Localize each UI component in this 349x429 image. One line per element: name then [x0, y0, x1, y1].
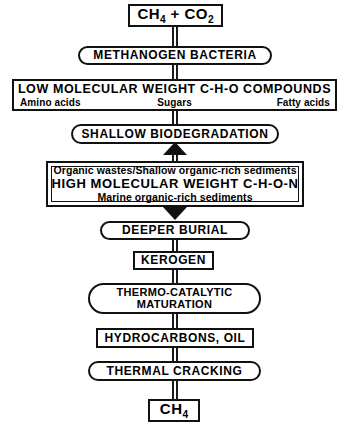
- connector-ch4co2-to-methanogen: [172, 26, 178, 48]
- node-high-molecular-weight-line1: Organic wastes/Shallow organic-rich sedi…: [53, 165, 296, 177]
- node-kerogen: KEROGEN: [133, 251, 214, 270]
- node-hydrocarbons-oil-label: HYDROCARBONS, OIL: [105, 332, 246, 345]
- node-low-molecular-weight-sublabels: Amino acids Sugars Fatty acids: [14, 97, 335, 108]
- connector-methanogen-to-lowmw: [172, 64, 178, 80]
- connector-kerogen-to-thermocatalytic: [172, 269, 178, 284]
- connector-lowmw-to-shallow: [172, 110, 178, 125]
- flowchart-diagram: CH4 + CO2 METHANOGEN BACTERIA LOW MOLECU…: [0, 0, 349, 429]
- node-thermo-catalytic-maturation-line2: MATURATION: [137, 299, 212, 311]
- node-shallow-biodegradation-label: SHALLOW BIODEGRADATION: [82, 128, 269, 141]
- node-high-molecular-weight-line2: HIGH MOLECULAR WEIGHT C-H-O-N: [51, 177, 298, 191]
- node-low-molecular-weight-label: LOW MOLECULAR WEIGHT C-H-O COMPOUNDS: [18, 83, 331, 96]
- node-high-molecular-weight-line3: Marine organic-rich sediments: [97, 192, 252, 204]
- sublabel-fatty-acids: Fatty acids: [277, 97, 330, 108]
- node-deeper-burial-label: DEEPER BURIAL: [122, 224, 228, 237]
- node-hydrocarbons-oil: HYDROCARBONS, OIL: [96, 328, 254, 348]
- connector-thermalcracking-to-ch4: [172, 380, 178, 400]
- node-ch4-final: CH4: [148, 399, 200, 422]
- node-thermo-catalytic-maturation-line1: THERMO-CATALYTIC: [117, 287, 233, 299]
- node-high-molecular-weight-inner: Organic wastes/Shallow organic-rich sedi…: [51, 166, 299, 202]
- node-deeper-burial: DEEPER BURIAL: [100, 221, 250, 240]
- node-kerogen-label: KEROGEN: [141, 254, 206, 267]
- node-thermal-cracking-label: THERMAL CRACKING: [106, 365, 242, 378]
- node-low-molecular-weight: LOW MOLECULAR WEIGHT C-H-O COMPOUNDS Ami…: [12, 79, 337, 111]
- node-ch4-final-label: CH4: [160, 401, 188, 420]
- sublabel-amino-acids: Amino acids: [20, 97, 81, 108]
- node-thermal-cracking: THERMAL CRACKING: [88, 361, 261, 381]
- node-methanogen-bacteria-label: METHANOGEN BACTERIA: [93, 49, 256, 62]
- arrow-to-deeper-burial-icon: [163, 207, 187, 220]
- node-ch4-co2: CH4 + CO2: [128, 4, 223, 27]
- node-thermo-catalytic-maturation: THERMO-CATALYTIC MATURATION: [88, 283, 261, 314]
- connector-hydrocarbons-to-thermalcracking: [172, 347, 178, 362]
- connector-thermocatalytic-to-hydrocarbons: [172, 313, 178, 329]
- node-ch4-co2-label: CH4 + CO2: [137, 6, 213, 25]
- node-shallow-biodegradation: SHALLOW BIODEGRADATION: [71, 124, 279, 144]
- node-high-molecular-weight: Organic wastes/Shallow organic-rich sedi…: [46, 161, 304, 207]
- sublabel-sugars: Sugars: [157, 97, 192, 108]
- node-methanogen-bacteria: METHANOGEN BACTERIA: [78, 46, 272, 65]
